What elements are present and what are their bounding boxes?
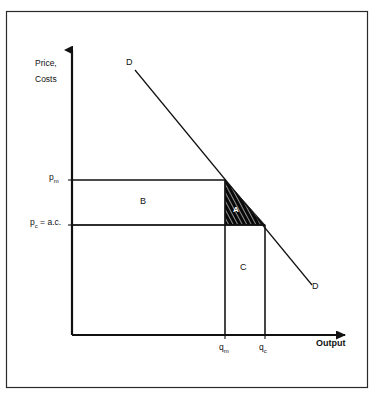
x-tick-label-qm: qm <box>219 343 229 354</box>
y-tick-label-pm: pm <box>49 173 59 184</box>
x-axis-label: Output <box>316 339 346 348</box>
region-label-c: C <box>240 263 247 272</box>
x-tick-label-qc: qc <box>259 343 267 354</box>
y-tick-label-pm-subscript: m <box>54 178 59 184</box>
region-label-b: B <box>140 197 146 206</box>
y-axis-label-line1: Price, <box>35 59 57 68</box>
x-tick-label-qm-subscript: m <box>224 348 229 354</box>
y-axis-label-line2: Costs <box>35 75 57 84</box>
y-tick-label-pc-suffix: = a.c. <box>38 217 61 227</box>
y-tick-label-pc: pc = a.c. <box>30 218 61 229</box>
region-label-a: A <box>233 206 239 214</box>
x-tick-label-qc-subscript: c <box>264 348 267 354</box>
demand-curve-label-top: D <box>126 58 133 67</box>
demand-curve-label-bottom: D <box>312 282 319 291</box>
